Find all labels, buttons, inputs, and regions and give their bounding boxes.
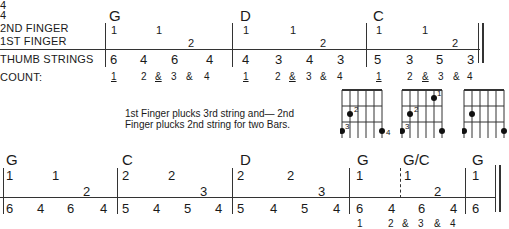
instruction-note: 1st Finger plucks 3rd string and— 2nd Fi… xyxy=(125,108,310,130)
final-barline xyxy=(499,165,501,212)
count-beat: 3 xyxy=(306,71,312,82)
finger-note: 1 xyxy=(404,168,411,183)
barline xyxy=(232,23,233,67)
count-beat: & xyxy=(186,71,193,82)
count-beat: & xyxy=(320,71,327,82)
thumb-string: 3 xyxy=(406,52,413,67)
finger-note: 2 xyxy=(237,168,244,183)
thumb-string: 6 xyxy=(110,52,117,67)
thumb-string: 5 xyxy=(374,52,381,67)
thumb-string: 4 xyxy=(37,201,44,216)
barline xyxy=(232,168,233,214)
first-finger-note: 2 xyxy=(452,37,458,49)
barline xyxy=(465,168,466,214)
thumb-string: 4 xyxy=(215,201,222,216)
second-finger-note: 1 xyxy=(111,24,117,36)
chord-name: G xyxy=(472,151,484,168)
thumb-string: 4 xyxy=(153,201,160,216)
chord-name: G xyxy=(109,7,121,24)
label-thumb-strings: THUMB STRINGS xyxy=(0,53,94,65)
chord-name: C xyxy=(122,151,133,168)
barline xyxy=(117,168,118,214)
chord-name: G/C xyxy=(403,151,430,168)
thumb-string: 4 xyxy=(333,201,340,216)
count-beat: & xyxy=(422,71,429,82)
chord-diagram-g: 234 xyxy=(340,88,400,140)
chord-name: C xyxy=(373,7,384,24)
count-beat: & xyxy=(453,71,460,82)
thumb-string: 3 xyxy=(275,52,282,67)
thumb-string: 5 xyxy=(122,201,129,216)
thumb-string: 4 xyxy=(242,52,249,67)
count-beat: 4 xyxy=(337,71,343,82)
svg-text:3: 3 xyxy=(345,122,350,131)
thumb-string: 4 xyxy=(100,201,107,216)
thumb-string: 5 xyxy=(436,52,443,67)
thumb-string: 5 xyxy=(237,201,244,216)
count-beat: & xyxy=(434,218,441,229)
count-beat: 2 xyxy=(388,218,394,229)
thumb-string: 4 xyxy=(270,201,277,216)
barline xyxy=(105,23,106,67)
finger-note: 1 xyxy=(472,168,479,183)
thumb-string: 6 xyxy=(171,52,178,67)
count-beat: 1 xyxy=(111,71,117,82)
label-count: COUNT: xyxy=(0,71,42,83)
top-staff-line xyxy=(0,49,480,50)
barline xyxy=(349,168,350,214)
count-beat: 2 xyxy=(407,71,413,82)
thumb-string: 6 xyxy=(472,201,479,216)
finger-note: 3 xyxy=(318,184,325,199)
time-signature-bottom: 4 xyxy=(0,10,6,20)
count-beat: 3 xyxy=(171,71,177,82)
count-beat: 4 xyxy=(467,71,473,82)
count-beat: 3 xyxy=(438,71,444,82)
finger-note: 2 xyxy=(168,168,175,183)
finger-note: 3 xyxy=(200,184,207,199)
count-beat: 3 xyxy=(418,218,424,229)
svg-text:2: 2 xyxy=(414,105,419,114)
dashed-barline xyxy=(400,168,401,198)
count-beat: 4 xyxy=(450,218,456,229)
finger-note: 2 xyxy=(287,168,294,183)
chord-name: D xyxy=(240,151,251,168)
second-finger-note: 1 xyxy=(156,24,162,36)
chord-name: G xyxy=(357,151,369,168)
thumb-string: 4 xyxy=(306,52,313,67)
chord-name: D xyxy=(240,7,251,24)
thumb-string: 4 xyxy=(140,52,147,67)
svg-text:2: 2 xyxy=(354,105,359,114)
bottom-staff-line xyxy=(0,197,496,198)
finger-note: 1 xyxy=(6,168,13,183)
count-beat: 1 xyxy=(376,71,382,82)
finger-note: 2 xyxy=(83,184,90,199)
thumb-string: 6 xyxy=(418,201,425,216)
chord-diagram-g-over-c: 123 xyxy=(400,88,450,140)
svg-text:4: 4 xyxy=(386,128,391,137)
label-first-finger: 1ST FINGER xyxy=(0,35,67,47)
count-beat: 1 xyxy=(243,71,249,82)
count-beat: 2 xyxy=(141,71,147,82)
second-finger-note: 1 xyxy=(290,24,296,36)
final-barline xyxy=(478,23,479,63)
finger-note: 2 xyxy=(122,168,129,183)
finger-note: 2 xyxy=(434,184,441,199)
count-beat: & xyxy=(289,71,296,82)
svg-text:1: 1 xyxy=(437,89,442,98)
chord-name: G xyxy=(6,151,18,168)
thumb-string: 6 xyxy=(356,201,363,216)
barline xyxy=(3,168,4,214)
second-finger-note: 1 xyxy=(243,24,249,36)
thumb-string: 5 xyxy=(184,201,191,216)
thumb-string: 6 xyxy=(67,201,74,216)
time-signature: 4 4 xyxy=(0,0,6,20)
label-second-finger: 2ND FINGER xyxy=(0,22,69,34)
finger-note: 1 xyxy=(356,168,363,183)
thumb-string: 4 xyxy=(206,52,213,67)
barline xyxy=(366,23,367,67)
second-finger-note: 1 xyxy=(422,24,428,36)
thumb-string: 6 xyxy=(6,201,13,216)
thumb-string: 4 xyxy=(450,201,457,216)
count-beat: 2 xyxy=(275,71,281,82)
svg-text:3: 3 xyxy=(405,122,410,131)
